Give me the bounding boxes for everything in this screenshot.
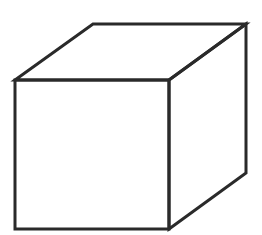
cube-front-face [15, 80, 169, 229]
cube-svg [0, 0, 262, 235]
cube-right-face [169, 24, 246, 229]
cube-drawing [0, 0, 262, 235]
cube-top-face [15, 24, 246, 80]
